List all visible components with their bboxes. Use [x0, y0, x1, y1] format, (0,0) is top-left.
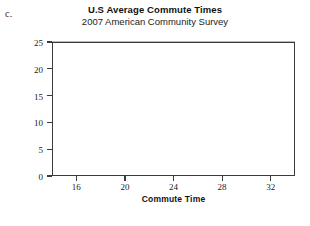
y-tick-label: 25 [21, 38, 43, 48]
x-axis-label: Commute Time [52, 194, 295, 204]
figure-panel: c. U.S Average Commute Times 2007 Americ… [0, 0, 310, 226]
y-tick-label: 10 [21, 118, 43, 128]
x-tick-mark [270, 176, 271, 181]
plot-area [52, 42, 295, 176]
plot-frame [52, 42, 295, 176]
y-tick-label: 5 [21, 145, 43, 155]
y-tick-label: 0 [21, 172, 43, 182]
chart-title: U.S Average Commute Times [0, 4, 310, 16]
chart-header: U.S Average Commute Times 2007 American … [0, 4, 310, 28]
x-tick-mark [124, 176, 125, 181]
x-tick-label: 32 [259, 182, 283, 192]
y-tick-label: 20 [21, 65, 43, 75]
x-tick-label: 16 [64, 182, 88, 192]
x-tick-label: 24 [162, 182, 186, 192]
x-tick-mark [173, 176, 174, 181]
x-tick-mark [222, 176, 223, 181]
y-axis: Percent 0510152025 [0, 42, 52, 176]
y-tick-label: 15 [21, 92, 43, 102]
x-tick-label: 20 [113, 182, 137, 192]
x-tick-mark [76, 176, 77, 181]
chart-subtitle: 2007 American Community Survey [0, 16, 310, 28]
x-tick-label: 28 [210, 182, 234, 192]
